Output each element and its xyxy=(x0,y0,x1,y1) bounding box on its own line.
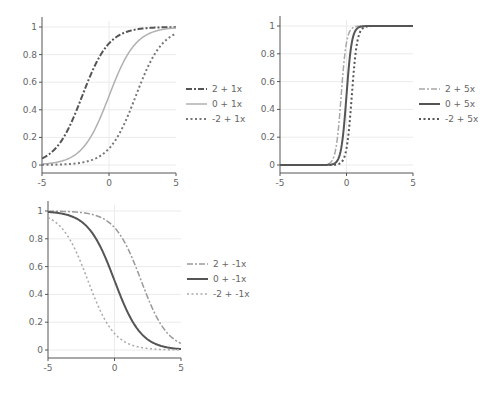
y-tick-label: 0.2 xyxy=(23,132,37,142)
chart-panel-top-left: 00.20.40.60.81-5052 + 1x0 + 1x-2 + 1x xyxy=(23,17,246,188)
y-tick-label: 1 xyxy=(37,206,43,216)
x-tick-label: -5 xyxy=(38,178,47,188)
x-tick-label: 5 xyxy=(178,363,184,373)
y-tick-label: 0.4 xyxy=(29,289,44,299)
y-tick-label: 0 xyxy=(269,160,275,170)
legend-label: -2 + 5x xyxy=(445,114,479,124)
legend-label: -2 + -1x xyxy=(213,289,250,299)
y-tick-label: 0.8 xyxy=(23,50,38,60)
y-tick-label: 0.6 xyxy=(261,77,276,87)
chart-panel-bottom-left: 00.20.40.60.81-5052 + -1x0 + -1x-2 + -1x xyxy=(29,201,251,373)
chart-canvas: 00.20.40.60.81-5052 + 1x0 + 1x-2 + 1x 00… xyxy=(0,0,491,394)
legend-label: 0 + 1x xyxy=(212,99,243,109)
legend-label: 2 + 5x xyxy=(445,84,476,94)
y-tick-label: 0.8 xyxy=(29,234,44,244)
y-tick-label: 0.2 xyxy=(29,317,43,327)
y-tick-label: 0.6 xyxy=(23,77,38,87)
legend-label: -2 + 1x xyxy=(212,114,246,124)
y-tick-label: 0.2 xyxy=(261,132,275,142)
y-tick-label: 0 xyxy=(37,345,43,355)
y-tick-label: 1 xyxy=(269,21,275,31)
x-tick-label: 0 xyxy=(106,178,112,188)
y-tick-label: 0.4 xyxy=(261,104,276,114)
y-tick-label: 0.4 xyxy=(23,105,38,115)
legend-label: 0 + 5x xyxy=(445,99,476,109)
y-tick-label: 1 xyxy=(31,22,37,32)
x-tick-label: -5 xyxy=(44,363,53,373)
chart-panel-top-right: 00.20.40.60.81-5052 + 5x0 + 5x-2 + 5x xyxy=(261,16,479,188)
y-tick-label: 0 xyxy=(31,160,37,170)
x-tick-label: 5 xyxy=(410,178,416,188)
legend-label: 2 + 1x xyxy=(212,84,243,94)
y-tick-label: 0.6 xyxy=(29,262,44,272)
x-tick-label: 0 xyxy=(344,178,350,188)
x-tick-label: 5 xyxy=(173,178,179,188)
x-tick-label: -5 xyxy=(276,178,285,188)
legend-label: 2 + -1x xyxy=(213,259,247,269)
legend-label: 0 + -1x xyxy=(213,274,247,284)
x-tick-label: 0 xyxy=(112,363,118,373)
y-tick-label: 0.8 xyxy=(261,49,276,59)
